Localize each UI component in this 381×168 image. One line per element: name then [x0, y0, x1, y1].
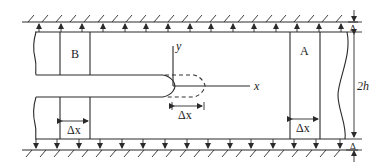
- delta-x-b-label: Δx: [67, 123, 81, 137]
- delta-x-tip-label: Δx: [178, 108, 192, 122]
- region-a-label: A: [300, 44, 309, 58]
- axis-y-label: y: [175, 39, 182, 53]
- crack-strip-diagram: B Δx A Δx y x Δx Δ 2h Δ: [0, 0, 381, 168]
- top-clamp: [22, 15, 358, 32]
- height-label: 2h: [357, 79, 369, 93]
- crack-tip-axes: y x Δx: [172, 39, 260, 122]
- region-b: B Δx: [60, 32, 90, 139]
- region-a: A Δx: [290, 32, 320, 139]
- delta-top-label: Δ: [350, 23, 356, 33]
- delta-x-a-label: Δx: [296, 121, 310, 135]
- region-b-label: B: [71, 47, 79, 61]
- delta-bottom-label: Δ: [350, 141, 356, 151]
- height-dimension: Δ 2h Δ: [346, 10, 369, 162]
- axis-x-label: x: [253, 79, 260, 93]
- bottom-clamp: [22, 139, 358, 157]
